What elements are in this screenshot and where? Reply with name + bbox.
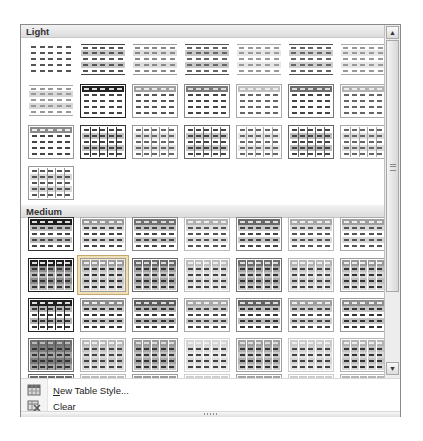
- table-style-light-1[interactable]: [28, 43, 74, 77]
- table-style-medium-6[interactable]: [288, 217, 334, 251]
- table-style-light-16[interactable]: [80, 125, 126, 159]
- table-style-light-17[interactable]: [132, 125, 178, 159]
- table-style-light-2[interactable]: [80, 43, 126, 77]
- table-style-medium-7[interactable]: [340, 217, 384, 251]
- table-style-medium-5[interactable]: [236, 217, 282, 251]
- table-style-light-11[interactable]: [184, 84, 230, 118]
- table-style-light-10[interactable]: [132, 84, 178, 118]
- table-style-light-7[interactable]: [340, 43, 384, 77]
- table-style-medium-2[interactable]: [80, 217, 126, 251]
- menu-item-label: New Table Style...: [53, 385, 129, 396]
- scroll-down-button[interactable]: ▼: [386, 362, 399, 375]
- menu-item-label: Clear: [53, 401, 76, 412]
- gallery-menu: New Table Style... Clear: [21, 378, 400, 417]
- table-style-light-20[interactable]: [288, 125, 334, 159]
- table-style-medium-8[interactable]: [28, 258, 74, 292]
- grip-icon: [390, 164, 396, 171]
- table-style-medium-12[interactable]: [236, 258, 282, 292]
- table-style-light-21[interactable]: [340, 125, 384, 159]
- section-header-light: Light: [21, 25, 384, 38]
- table-style-light-19[interactable]: [236, 125, 282, 159]
- table-style-light-12[interactable]: [236, 84, 282, 118]
- table-style-medium-11[interactable]: [184, 258, 230, 292]
- resize-handle[interactable]: [21, 411, 400, 417]
- table-style-light-13[interactable]: [288, 84, 334, 118]
- table-style-medium-16[interactable]: [80, 298, 126, 332]
- resize-grip-icon: [204, 413, 218, 415]
- table-style-medium-15[interactable]: [28, 298, 74, 332]
- scrollbar-thumb[interactable]: [386, 40, 399, 292]
- table-style-medium-18[interactable]: [184, 298, 230, 332]
- table-style-medium-27[interactable]: [288, 338, 334, 372]
- table-style-medium-9[interactable]: [80, 258, 126, 292]
- vertical-scrollbar[interactable]: ▲ ▼: [384, 25, 400, 378]
- table-style-medium-4[interactable]: [184, 217, 230, 251]
- table-style-medium-24[interactable]: [132, 338, 178, 372]
- arrow-up-icon: ▲: [389, 29, 396, 36]
- menu-item-new-table-style[interactable]: New Table Style...: [21, 382, 400, 398]
- arrow-down-icon: ▼: [389, 365, 396, 372]
- table-style-medium-1[interactable]: [28, 217, 74, 251]
- table-styles-gallery: LightMedium ▲ ▼ New Table Style...: [20, 24, 401, 417]
- table-style-medium-3[interactable]: [132, 217, 178, 251]
- table-style-medium-19[interactable]: [236, 298, 282, 332]
- table-style-light-4[interactable]: [184, 43, 230, 77]
- table-style-light-5[interactable]: [236, 43, 282, 77]
- new-table-style-icon: [27, 384, 41, 396]
- table-style-medium-21[interactable]: [340, 298, 384, 332]
- table-style-light-18[interactable]: [184, 125, 230, 159]
- table-style-light-22[interactable]: [28, 166, 74, 200]
- table-style-light-9[interactable]: [80, 84, 126, 118]
- table-style-medium-25[interactable]: [184, 338, 230, 372]
- table-style-light-6[interactable]: [288, 43, 334, 77]
- table-style-medium-20[interactable]: [288, 298, 334, 332]
- table-style-medium-23[interactable]: [80, 338, 126, 372]
- table-style-light-14[interactable]: [340, 84, 384, 118]
- table-style-medium-17[interactable]: [132, 298, 178, 332]
- table-style-medium-14[interactable]: [340, 258, 384, 292]
- table-style-light-15[interactable]: [28, 125, 74, 159]
- styles-scroll-area: LightMedium: [21, 25, 384, 378]
- table-style-medium-22[interactable]: [28, 338, 74, 372]
- table-style-medium-28[interactable]: [340, 338, 384, 372]
- table-style-medium-13[interactable]: [288, 258, 334, 292]
- table-style-medium-10[interactable]: [132, 258, 178, 292]
- scroll-up-button[interactable]: ▲: [386, 26, 399, 39]
- table-style-light-8[interactable]: [28, 84, 74, 118]
- table-style-medium-26[interactable]: [236, 338, 282, 372]
- table-style-light-3[interactable]: [132, 43, 178, 77]
